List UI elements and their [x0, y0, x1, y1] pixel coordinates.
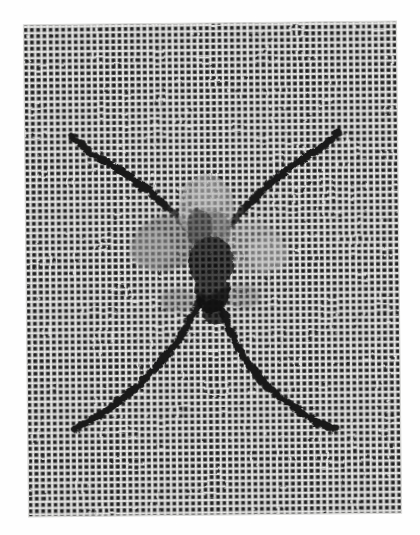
photo-frame: Needlepoint canvas with stitched insect …	[0, 0, 420, 535]
film-grain-overlay	[0, 0, 420, 535]
needlepoint-canvas-photograph	[0, 0, 420, 535]
